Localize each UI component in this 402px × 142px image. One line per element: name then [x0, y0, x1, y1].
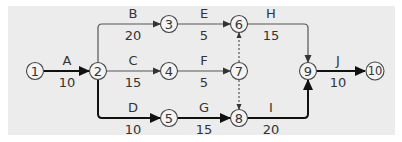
svg-text:3: 3	[165, 17, 173, 32]
svg-text:10: 10	[368, 64, 383, 78]
activity-a-name: A	[63, 53, 72, 68]
svg-text:7: 7	[235, 64, 243, 79]
activity-i-arrow	[248, 80, 308, 118]
node-1: 1	[27, 63, 44, 80]
svg-text:2: 2	[94, 64, 102, 79]
activity-j-duration: 10	[330, 75, 347, 90]
activity-c-name: C	[128, 53, 137, 68]
activity-i-duration: 20	[263, 122, 280, 137]
svg-text:4: 4	[165, 64, 173, 79]
activity-a-duration: 10	[59, 75, 76, 90]
activity-f-name: F	[200, 53, 207, 68]
node-4: 4	[161, 63, 178, 80]
activity-b-name: B	[129, 6, 138, 21]
activity-i-name: I	[269, 100, 273, 115]
node-8: 8	[231, 110, 248, 127]
node-7: 7	[231, 63, 248, 80]
activity-f-duration: 5	[200, 75, 208, 90]
node-3: 3	[161, 16, 178, 33]
activity-c-duration: 15	[125, 75, 142, 90]
svg-text:6: 6	[235, 17, 243, 32]
activity-d-name: D	[128, 100, 138, 115]
network-diagram: A 10 B 20 C 15 D 10 E 5 F 5 G 15 H 15 I …	[0, 0, 402, 142]
svg-text:9: 9	[304, 64, 312, 79]
node-9: 9	[300, 63, 317, 80]
activity-e-name: E	[200, 6, 208, 21]
node-10: 10	[366, 62, 384, 80]
activity-b-duration: 20	[125, 28, 142, 43]
activity-g-duration: 15	[196, 122, 213, 137]
activity-j-name: J	[335, 53, 340, 68]
node-6: 6	[231, 16, 248, 33]
svg-text:5: 5	[165, 111, 173, 126]
node-5: 5	[161, 110, 178, 127]
svg-text:8: 8	[235, 111, 243, 126]
activity-g-name: G	[199, 100, 209, 115]
node-2: 2	[90, 63, 107, 80]
activity-h-name: H	[266, 6, 276, 21]
activity-d-duration: 10	[125, 122, 142, 137]
activity-e-duration: 5	[200, 28, 208, 43]
svg-text:1: 1	[31, 64, 39, 79]
activity-h-duration: 15	[263, 28, 280, 43]
